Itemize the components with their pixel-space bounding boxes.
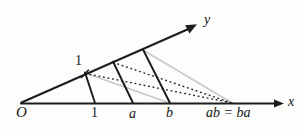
x-axis-arrowhead (274, 99, 284, 107)
label-tick-one: 1 (91, 106, 98, 120)
label-x-axis: x (288, 95, 294, 109)
label-unit-on-y: 1 (75, 54, 82, 68)
figure-canvas (0, 0, 303, 130)
label-tick-a: a (129, 107, 136, 121)
label-tick-product: ab = ba (206, 106, 250, 120)
transversal-unit-one (85, 73, 95, 104)
geometry-figure: O x y 1 a b ab = ba 1 (0, 0, 303, 130)
label-origin: O (16, 105, 27, 120)
label-tick-b: b (166, 106, 173, 120)
gray-auxiliary-lines (85, 50, 233, 104)
label-y-axis: y (204, 13, 210, 27)
